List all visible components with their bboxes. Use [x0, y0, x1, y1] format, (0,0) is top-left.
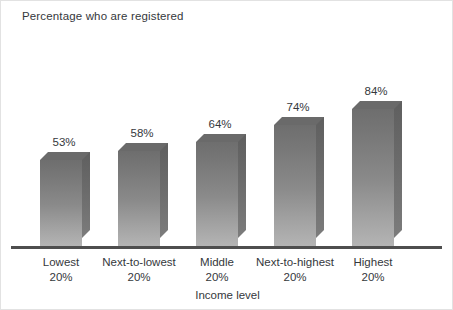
- plot-area: 53%58%64%74%84%: [1, 1, 453, 251]
- bar-body[interactable]: [196, 142, 238, 246]
- x-axis-category-labels: Lowest20%Next-to-lowest20%Middle20%Next-…: [1, 255, 453, 291]
- bar-body[interactable]: [118, 151, 160, 246]
- category-label-line2: 20%: [318, 270, 428, 285]
- bar-side-face: [316, 117, 324, 238]
- bar-value-label: 84%: [348, 85, 404, 97]
- bar-top-face: [352, 101, 402, 109]
- bar-value-label: 58%: [114, 127, 170, 139]
- bar-value-label: 74%: [270, 101, 326, 113]
- bar-value-label: 64%: [192, 118, 248, 130]
- bar-front-face: [40, 160, 82, 246]
- bar-value-label: 53%: [36, 136, 92, 148]
- bar-body[interactable]: [352, 109, 394, 246]
- x-axis-line: [11, 246, 442, 249]
- category-label-5: Highest20%: [318, 255, 428, 285]
- category-label-line1: Highest: [318, 255, 428, 270]
- bar-front-face: [352, 109, 394, 246]
- bar-top-face: [118, 143, 168, 151]
- bar-body[interactable]: [40, 160, 82, 246]
- bar-side-face: [82, 152, 90, 238]
- bar-body[interactable]: [274, 125, 316, 246]
- bar-front-face: [274, 125, 316, 246]
- bar-side-face: [160, 143, 168, 238]
- bar-front-face: [196, 142, 238, 246]
- chart-figure: Percentage who are registered 53%58%64%7…: [0, 0, 453, 310]
- bar-top-face: [274, 117, 324, 125]
- bar-top-face: [40, 152, 90, 160]
- bar-side-face: [238, 134, 246, 238]
- bar-front-face: [118, 151, 160, 246]
- bar-top-face: [196, 134, 246, 142]
- x-axis-title: Income level: [1, 289, 453, 301]
- bar-side-face: [394, 101, 402, 238]
